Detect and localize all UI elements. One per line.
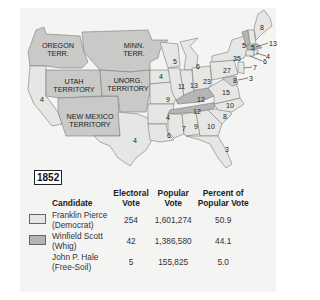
svg-text:9: 9 bbox=[194, 123, 198, 130]
democrat-swatch bbox=[29, 214, 46, 224]
svg-text:23: 23 bbox=[203, 78, 211, 85]
svg-text:6: 6 bbox=[167, 132, 171, 139]
percent-cell: 50.9 bbox=[195, 210, 252, 231]
electoral-cell: 254 bbox=[110, 210, 151, 231]
svg-text:10: 10 bbox=[226, 102, 234, 109]
svg-text:4: 4 bbox=[266, 53, 270, 60]
label-utah-2: TERRITORY bbox=[53, 85, 94, 94]
svg-text:12: 12 bbox=[197, 96, 205, 103]
electoral-cell: 42 bbox=[110, 231, 151, 252]
candidate-cell: Winfield Scott(Whig) bbox=[49, 231, 110, 252]
svg-text:13: 13 bbox=[269, 40, 277, 47]
popular-cell: 155,825 bbox=[152, 252, 195, 273]
state-new-york bbox=[212, 36, 248, 62]
svg-text:10: 10 bbox=[207, 123, 215, 130]
candidate-cell: John P. Hale(Free-Soil) bbox=[49, 252, 110, 273]
svg-text:11: 11 bbox=[178, 83, 185, 90]
svg-text:12: 12 bbox=[193, 108, 201, 115]
header-swatch bbox=[26, 188, 49, 210]
svg-text:8: 8 bbox=[223, 113, 227, 120]
label-nm-2: TERRITORY bbox=[69, 120, 110, 129]
table-row: Winfield Scott(Whig) 42 1,386,580 44.1 bbox=[26, 231, 252, 252]
electoral-cell: 5 bbox=[110, 252, 151, 273]
year-label: 1852 bbox=[34, 170, 62, 185]
label-unorg-2: TERRITORY bbox=[107, 84, 148, 93]
swatch-cell bbox=[26, 210, 49, 231]
svg-text:7: 7 bbox=[253, 64, 257, 71]
svg-text:7: 7 bbox=[182, 125, 186, 132]
label-oregon-2: TERR. bbox=[47, 49, 69, 58]
svg-text:8: 8 bbox=[260, 24, 264, 31]
candidate-cell: Franklin Pierce(Democrat) bbox=[49, 210, 110, 231]
state-new-jersey bbox=[238, 62, 244, 74]
svg-text:4: 4 bbox=[166, 114, 170, 121]
svg-text:9: 9 bbox=[166, 96, 170, 103]
whig-swatch bbox=[29, 235, 46, 245]
header-candidate: Candidate bbox=[49, 188, 110, 210]
table-row: John P. Hale(Free-Soil) 5 155,825 5.0 bbox=[26, 252, 252, 273]
svg-text:8: 8 bbox=[233, 77, 237, 84]
svg-text:5: 5 bbox=[242, 42, 246, 49]
svg-text:5: 5 bbox=[251, 44, 255, 51]
popular-cell: 1,386,580 bbox=[152, 231, 195, 252]
table-row: Franklin Pierce(Democrat) 254 1,601,274 … bbox=[26, 210, 252, 231]
svg-text:3: 3 bbox=[225, 146, 229, 153]
header-electoral: ElectoralVote bbox=[110, 188, 151, 210]
svg-text:15: 15 bbox=[222, 89, 230, 96]
svg-text:6: 6 bbox=[196, 63, 200, 70]
percent-cell: 5.0 bbox=[195, 252, 252, 273]
svg-text:3: 3 bbox=[249, 75, 253, 82]
swatch-cell bbox=[26, 252, 49, 273]
svg-text:5: 5 bbox=[173, 58, 177, 65]
results-table: Candidate ElectoralVote PopularVote Perc… bbox=[26, 188, 252, 273]
svg-text:35: 35 bbox=[233, 55, 241, 62]
state-wisconsin bbox=[160, 42, 180, 68]
percent-cell: 44.1 bbox=[195, 231, 252, 252]
svg-text:4: 4 bbox=[133, 137, 137, 144]
popular-cell: 1,601,274 bbox=[152, 210, 195, 231]
label-minn-2: TERR. bbox=[123, 49, 145, 58]
swatch-cell bbox=[26, 231, 49, 252]
svg-text:4: 4 bbox=[159, 73, 163, 80]
svg-text:27: 27 bbox=[223, 67, 231, 74]
svg-text:4: 4 bbox=[40, 96, 44, 103]
table-header-row: Candidate ElectoralVote PopularVote Perc… bbox=[26, 188, 252, 210]
header-popular: PopularVote bbox=[152, 188, 195, 210]
header-percent: Percent ofPopular Vote bbox=[195, 188, 252, 210]
svg-text:13: 13 bbox=[190, 82, 198, 89]
